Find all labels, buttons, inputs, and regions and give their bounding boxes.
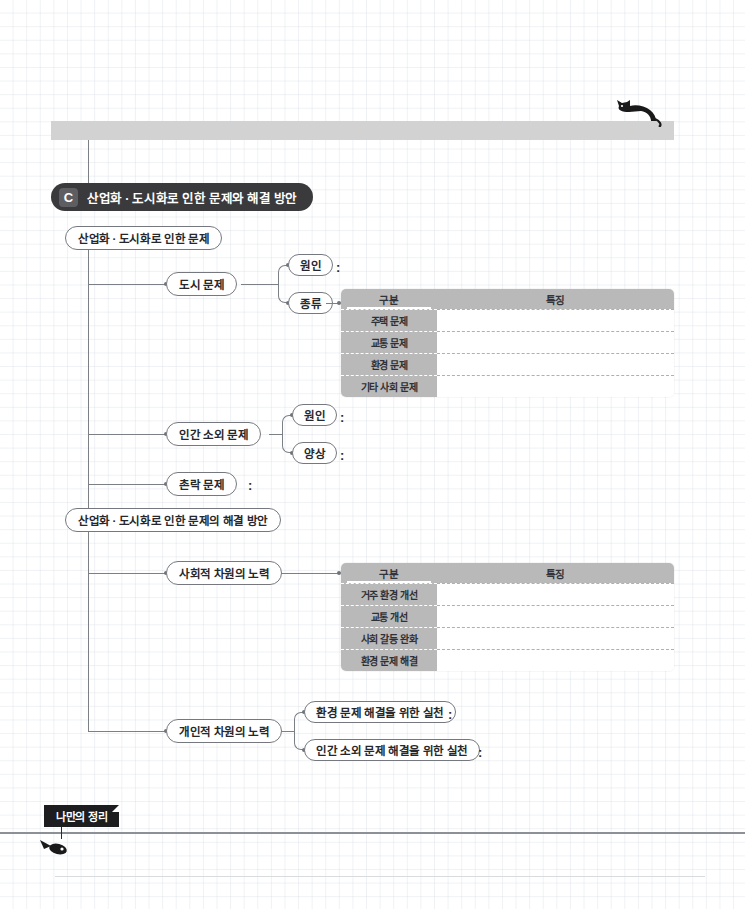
- connector-root1-to-root2: [88, 250, 89, 508]
- footer-rule: [0, 832, 745, 834]
- table-cell-input[interactable]: [437, 649, 674, 671]
- node-branch1-root: 산업화 · 도시화로 인한 문제: [65, 226, 222, 250]
- node-chollak-munje: 촌락 문제: [166, 472, 237, 496]
- connector-elbow-gaeinjeok: [294, 712, 304, 750]
- table-cell-label: 환경 문제: [341, 353, 437, 375]
- table-row: 기타 사회 문제: [341, 375, 674, 397]
- colon-ingan-wonin: :: [340, 411, 344, 424]
- table-row: 환경 문제: [341, 353, 674, 375]
- table-cell-label: 환경 문제 해결: [341, 649, 437, 671]
- table-cell-input[interactable]: [437, 331, 674, 353]
- table-dosi-munje: 구분 특징 주택 문제 교통 문제 환경 문제 기타 사회 문제: [341, 289, 674, 397]
- table-row: 주택 문제: [341, 309, 674, 331]
- table-row: 사회 갈등 완화: [341, 627, 674, 649]
- table-cell-label: 거주 환경 개선: [341, 583, 437, 605]
- table-header-row: 구분 특징: [341, 289, 674, 309]
- node-dosi-wonin: 원인: [288, 254, 333, 276]
- connector-gaeinjeok-right: [281, 731, 295, 732]
- colon-ingan-silcheon: :: [478, 746, 482, 759]
- table-cell-label: 사회 갈등 완화: [341, 627, 437, 649]
- table-cell-label: 교통 개선: [341, 605, 437, 627]
- colon-chollak: :: [248, 479, 252, 492]
- connector-to-gaeinjeok: [88, 731, 166, 732]
- table-cell-input[interactable]: [437, 375, 674, 397]
- node-hwangyeong-silcheon: 환경 문제 해결을 위한 실천: [304, 701, 456, 723]
- table-cell-input[interactable]: [437, 605, 674, 627]
- colon-hwangyeong-silcheon: :: [448, 708, 452, 721]
- section-banner: C 산업화 · 도시화로 인한 문제와 해결 방안: [51, 183, 313, 211]
- colon-dosi-wonin: :: [336, 261, 340, 274]
- table-sahoejeok: 구분 특징 거주 환경 개선 교통 개선 사회 갈등 완화 환경 문제 해결: [341, 563, 674, 671]
- footer-label: 나만의 정리: [44, 805, 119, 827]
- worksheet-page: C 산업화 · 도시화로 인한 문제와 해결 방안 산업화 · 도시화로 인한 …: [0, 0, 745, 909]
- node-sahoejeok-norryeok: 사회적 차원의 노력: [166, 561, 282, 585]
- section-badge: C: [59, 188, 78, 207]
- table-cell-label: 주택 문제: [341, 309, 437, 331]
- table-cell-label: 교통 문제: [341, 331, 437, 353]
- connector-shelf-to-banner: [88, 140, 89, 183]
- table-header-row: 구분 특징: [341, 563, 674, 583]
- table-header-cell-teukjing: 특징: [437, 289, 674, 309]
- connector-to-ingan: [88, 434, 166, 435]
- node-ingan-sooe: 인간 소외 문제: [166, 422, 261, 446]
- table-row: 거주 환경 개선: [341, 583, 674, 605]
- node-gaeinjeok-norryeok: 개인적 차원의 노력: [166, 719, 282, 743]
- node-dosi-munje: 도시 문제: [166, 272, 237, 296]
- table-header-cell-teukjing: 특징: [437, 563, 674, 583]
- footer-faint-rule: [55, 876, 705, 877]
- connector-to-sahoejeok: [88, 573, 166, 574]
- table-cell-input[interactable]: [437, 583, 674, 605]
- connector-to-dosi: [88, 284, 166, 285]
- connector-dosi-right: [241, 284, 279, 285]
- table-header-cell-gubun: 구분: [341, 289, 437, 309]
- node-ingan-wonin: 원인: [292, 404, 337, 426]
- section-title: 산업화 · 도시화로 인한 문제와 해결 방안: [87, 188, 297, 207]
- node-ingan-yangsang: 양상: [292, 442, 337, 464]
- colon-ingan-yangsang: :: [340, 449, 344, 462]
- connector-elbow-dosi: [278, 265, 288, 303]
- node-ingan-silcheon: 인간 소외 문제 해결을 위한 실천: [304, 739, 480, 761]
- connector-to-chollak: [88, 484, 166, 485]
- connector-sahoejeok-to-table: [281, 573, 340, 574]
- connector-elbow-ingan: [282, 415, 292, 453]
- table-cell-label: 기타 사회 문제: [341, 375, 437, 397]
- table-cell-input[interactable]: [437, 353, 674, 375]
- connector-branch2-trunk: [88, 532, 89, 732]
- fish-bone-icon: [38, 836, 72, 858]
- table-row: 교통 문제: [341, 331, 674, 353]
- table-cell-input[interactable]: [437, 627, 674, 649]
- table-header-cell-gubun: 구분: [341, 563, 437, 583]
- table-cell-input[interactable]: [437, 309, 674, 331]
- node-branch2-root: 산업화 · 도시화로 인한 문제의 해결 방안: [65, 508, 281, 532]
- gray-shelf-bar: [51, 121, 674, 140]
- cat-icon: [612, 100, 664, 127]
- table-row: 교통 개선: [341, 605, 674, 627]
- table-row: 환경 문제 해결: [341, 649, 674, 671]
- connector-ingan-right: [269, 434, 283, 435]
